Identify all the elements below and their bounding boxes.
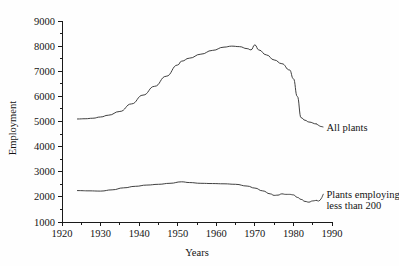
x-tick-label-1930: 1930 [90,228,111,239]
series-label-all-plants: All plants [326,122,367,133]
leader-all-plants [317,124,324,127]
y-tick-label-8000: 8000 [34,41,55,52]
x-tick-label-1970: 1970 [244,228,265,239]
x-tick-label-1950: 1950 [167,228,188,239]
series-leader-lines [317,124,324,201]
y-tick-label-3000: 3000 [34,166,55,177]
series-label-small-plants-line1: Plants employing [326,189,399,200]
y-tick-label-6000: 6000 [34,91,55,102]
y-tick-label-1000: 1000 [34,217,55,228]
x-axis-tick-labels: 19201930194019501960197019801990 [52,228,343,239]
axis-lines [62,21,332,222]
y-axis-major-ticks [58,21,62,222]
y-tick-label-2000: 2000 [34,191,55,202]
data-series-group [77,45,316,202]
x-tick-label-1920: 1920 [52,228,73,239]
series-path-plants-under-200 [77,182,316,202]
x-tick-label-1960: 1960 [206,228,227,239]
chart-figure: 100020003000400050006000700080009000 192… [0,0,399,266]
y-tick-label-7000: 7000 [34,66,55,77]
y-axis-tick-labels: 100020003000400050006000700080009000 [34,16,55,228]
leader-plants-under-200 [317,194,324,201]
x-axis-title: Years [185,247,208,258]
x-tick-label-1990: 1990 [322,228,343,239]
x-tick-label-1980: 1980 [283,228,304,239]
employment-line-chart: 100020003000400050006000700080009000 192… [0,0,399,266]
series-label-small-plants-line2: less than 200 [326,200,381,211]
y-axis-title: Employment [7,101,18,155]
axis-frame [62,21,332,222]
series-path-all-plants [77,45,316,124]
y-tick-label-9000: 9000 [34,16,55,27]
y-tick-label-5000: 5000 [34,116,55,127]
y-tick-label-4000: 4000 [34,141,55,152]
x-tick-label-1940: 1940 [129,228,150,239]
